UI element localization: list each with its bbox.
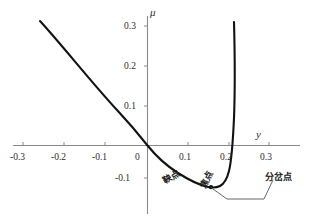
x-axis-name: y — [256, 128, 261, 140]
x-tick-label-0.2: 0.2 — [220, 152, 232, 162]
annotation-bifurcation-point: 分岔点 — [265, 170, 292, 183]
y-tick-label-0.3: 0.3 — [124, 21, 136, 31]
y-axis-name: μ — [150, 6, 156, 18]
x-tick-label--0.2: -0.2 — [51, 152, 66, 162]
bifurcation-leader-line — [211, 180, 273, 199]
y-tick-label-0.1: 0.1 — [124, 101, 136, 111]
x-tick-label--0.1: -0.1 — [92, 152, 107, 162]
equilibrium-curve — [40, 21, 235, 188]
x-tick-label--0.3: -0.3 — [10, 152, 25, 162]
y-tick-label-0.2: 0.2 — [124, 61, 136, 71]
bifurcation-diagram — [0, 0, 314, 220]
y-tick-label--0.1: -0.1 — [115, 173, 130, 183]
x-tick-label-0.1: 0.1 — [179, 152, 191, 162]
x-tick-label-0.3: 0.3 — [260, 152, 272, 162]
x-tick-label-0: 0 — [135, 152, 140, 162]
